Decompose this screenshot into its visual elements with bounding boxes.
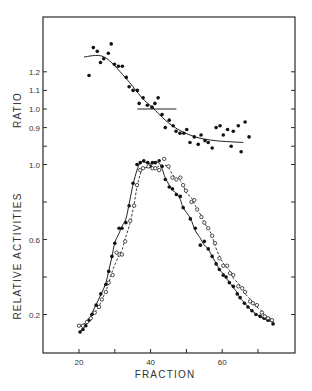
ratio-point — [136, 89, 140, 93]
activity-a-point — [179, 195, 183, 199]
ratio-point — [239, 150, 243, 154]
activity-a-point — [189, 217, 193, 221]
ratio-point — [221, 133, 225, 137]
activity-b-point — [175, 178, 178, 181]
ratio-point — [231, 130, 235, 134]
ratio-point — [137, 102, 141, 106]
ratio-tick-label: 1.1 — [29, 86, 41, 95]
ratio-point — [226, 128, 230, 132]
activity-b-point — [263, 315, 266, 318]
ratio-point — [95, 50, 99, 54]
ratio-point — [150, 105, 154, 109]
activity-b-point — [251, 302, 254, 305]
activity-a-point — [235, 292, 239, 296]
activity-b-point — [104, 290, 107, 293]
ratio-point — [206, 141, 210, 145]
activity-a-point — [167, 185, 171, 189]
activity-a-point — [271, 322, 275, 326]
activity-a-point — [194, 226, 198, 230]
tick-labels: 2040600.91.01.11.20.20.61.0 — [29, 68, 227, 367]
ratio-point — [87, 74, 91, 78]
activity-b-point — [81, 324, 84, 327]
ratio-point — [237, 124, 241, 128]
activity-b-point — [135, 183, 138, 186]
activity-b-point — [154, 167, 157, 170]
activity-b-point — [111, 273, 114, 276]
activity-b-point — [232, 273, 235, 276]
activity-a-point — [203, 240, 207, 244]
ratio-point — [153, 102, 157, 106]
activity-a-point — [124, 221, 128, 225]
activity-tick-label: 0.2 — [29, 311, 41, 320]
activity-b-point — [203, 221, 206, 224]
activity-A-curve — [80, 162, 273, 331]
activity-a-point — [135, 163, 139, 167]
activity-b-point — [120, 253, 123, 256]
ratio-point — [117, 64, 121, 68]
ratio-point — [210, 146, 214, 150]
activity-b-point — [266, 317, 269, 320]
ratio-point — [229, 144, 233, 148]
ratio-tick-label: 1.2 — [29, 68, 41, 77]
ratio-point — [146, 103, 150, 107]
activity-b-point — [147, 165, 150, 168]
activity-tick-label: 1.0 — [29, 161, 41, 170]
x-tick-label: 20 — [75, 358, 84, 367]
activity-a-point — [231, 285, 235, 289]
ratio-point — [131, 89, 135, 93]
activity-a-point — [250, 309, 254, 313]
activity-b-point — [171, 176, 174, 179]
activity-a-point — [224, 275, 228, 279]
activity-a-point — [243, 301, 247, 305]
x-tick-label: 60 — [218, 358, 227, 367]
activity-a-point — [142, 159, 146, 163]
ratio-point — [218, 124, 222, 128]
activity-a-point — [138, 161, 142, 165]
activity-b-point — [132, 204, 135, 207]
activity-a-point — [110, 255, 114, 259]
ratio-point — [141, 96, 145, 100]
activity-a-point — [246, 305, 250, 309]
activity-b-point — [97, 305, 100, 308]
activity-b-point — [123, 240, 126, 243]
activity-a-point — [171, 187, 175, 191]
activity-b-point — [128, 219, 131, 222]
ratio-point — [182, 131, 186, 135]
activity-b-point — [207, 227, 210, 230]
activity-b-point — [157, 168, 160, 171]
activity-b-point — [226, 264, 229, 267]
activity-a-point — [254, 313, 258, 317]
activity-b-point — [85, 320, 88, 323]
activity-a-point — [113, 241, 117, 245]
activity-a-point — [78, 330, 82, 334]
ratio-point — [121, 64, 125, 68]
ratio-point — [171, 124, 175, 128]
activity-a-point — [81, 328, 85, 332]
ratio-point — [185, 128, 189, 132]
activity-b-point — [167, 165, 170, 168]
activity-a-point — [210, 255, 214, 259]
x-axis-title: FRACTION — [135, 369, 196, 380]
ratio-point — [247, 135, 251, 139]
activity-b-point — [93, 311, 96, 314]
activity-b-point — [228, 272, 231, 275]
activity-b-point — [237, 285, 240, 288]
ratio-point — [102, 57, 106, 61]
activity-b-point — [163, 157, 166, 160]
ratio-point — [196, 143, 200, 147]
activity-a-point — [258, 315, 262, 319]
activity-b-point — [270, 318, 273, 321]
ratio-point — [107, 51, 111, 55]
activity-a-point — [157, 159, 161, 163]
activity-b-point — [141, 167, 144, 170]
ratio-point — [160, 113, 164, 117]
ratio-point — [156, 96, 160, 100]
activity-a-point — [206, 247, 210, 251]
x-tick-label: 40 — [146, 358, 155, 367]
activity-b-point — [100, 298, 103, 301]
ratio-point — [124, 76, 128, 80]
activity-b-point — [89, 317, 92, 320]
activity-axis-title: RELATIVE ACTIVITIES — [12, 192, 23, 319]
ratio-tick-label: 0.9 — [29, 124, 41, 133]
ratio-point — [109, 42, 113, 46]
